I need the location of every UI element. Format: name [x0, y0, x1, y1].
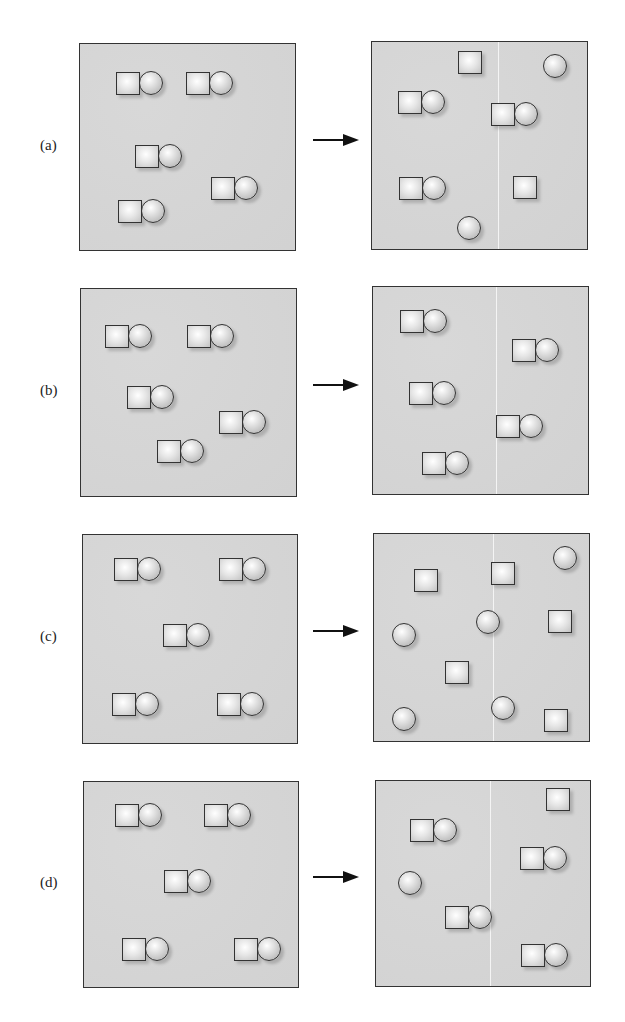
- square-molecule-icon: [445, 906, 469, 929]
- row-label: (b): [40, 382, 58, 399]
- square-molecule-icon: [410, 819, 434, 842]
- circle-molecule-icon: [186, 623, 210, 647]
- circle-molecule-icon: [128, 324, 152, 348]
- circle-molecule-icon: [422, 176, 446, 200]
- square-molecule-icon: [118, 200, 142, 223]
- circle-molecule-icon: [257, 937, 281, 961]
- square-molecule-icon: [163, 624, 187, 647]
- arrow-shaft: [313, 384, 347, 386]
- square-molecule-icon: [414, 569, 438, 592]
- arrow-shaft: [313, 139, 347, 141]
- right-arrow-icon: [313, 134, 359, 146]
- row-label: (c): [40, 628, 57, 645]
- circle-molecule-icon: [543, 54, 567, 78]
- square-molecule-icon: [544, 709, 568, 732]
- circle-molecule-icon: [139, 71, 163, 95]
- divider-line: [498, 42, 499, 249]
- square-molecule-icon: [164, 870, 188, 893]
- square-molecule-icon: [186, 72, 210, 95]
- square-molecule-icon: [422, 452, 446, 475]
- square-molecule-icon: [234, 938, 258, 961]
- circle-molecule-icon: [468, 905, 492, 929]
- circle-molecule-icon: [234, 176, 258, 200]
- circle-molecule-icon: [209, 71, 233, 95]
- square-molecule-icon: [491, 562, 515, 585]
- arrow-head: [343, 134, 359, 146]
- circle-molecule-icon: [421, 90, 445, 114]
- square-molecule-icon: [548, 610, 572, 633]
- arrow-head: [343, 625, 359, 637]
- circle-molecule-icon: [135, 692, 159, 716]
- circle-molecule-icon: [227, 803, 251, 827]
- square-molecule-icon: [187, 325, 211, 348]
- circle-molecule-icon: [398, 871, 422, 895]
- circle-molecule-icon: [141, 199, 165, 223]
- square-molecule-icon: [112, 693, 136, 716]
- circle-molecule-icon: [457, 216, 481, 240]
- arrow-shaft: [313, 630, 347, 632]
- circle-molecule-icon: [242, 410, 266, 434]
- circle-molecule-icon: [158, 144, 182, 168]
- row-label: (a): [40, 137, 57, 154]
- circle-molecule-icon: [210, 324, 234, 348]
- circle-molecule-icon: [433, 818, 457, 842]
- right-arrow-icon: [313, 625, 359, 637]
- square-molecule-icon: [217, 693, 241, 716]
- arrow-shaft: [313, 876, 347, 878]
- square-molecule-icon: [157, 440, 181, 463]
- circle-molecule-icon: [150, 385, 174, 409]
- square-molecule-icon: [400, 310, 424, 333]
- row-label: (d): [40, 874, 58, 891]
- square-molecule-icon: [135, 145, 159, 168]
- square-molecule-icon: [513, 176, 537, 199]
- before-panel: [80, 288, 297, 497]
- circle-molecule-icon: [514, 102, 538, 126]
- square-molecule-icon: [115, 804, 139, 827]
- circle-molecule-icon: [138, 803, 162, 827]
- circle-molecule-icon: [145, 937, 169, 961]
- square-molecule-icon: [398, 91, 422, 114]
- circle-molecule-icon: [242, 557, 266, 581]
- circle-molecule-icon: [476, 610, 500, 634]
- circle-molecule-icon: [491, 696, 515, 720]
- square-molecule-icon: [458, 51, 482, 74]
- circle-molecule-icon: [543, 846, 567, 870]
- square-molecule-icon: [520, 847, 544, 870]
- divider-line: [496, 287, 497, 494]
- circle-molecule-icon: [180, 439, 204, 463]
- circle-molecule-icon: [392, 623, 416, 647]
- square-molecule-icon: [219, 558, 243, 581]
- square-molecule-icon: [114, 558, 138, 581]
- circle-molecule-icon: [544, 943, 568, 967]
- square-molecule-icon: [105, 325, 129, 348]
- square-molecule-icon: [122, 938, 146, 961]
- square-molecule-icon: [399, 177, 423, 200]
- circle-molecule-icon: [240, 692, 264, 716]
- square-molecule-icon: [219, 411, 243, 434]
- circle-molecule-icon: [553, 546, 577, 570]
- right-arrow-icon: [313, 871, 359, 883]
- square-molecule-icon: [512, 339, 536, 362]
- arrow-head: [343, 871, 359, 883]
- circle-molecule-icon: [187, 869, 211, 893]
- circle-molecule-icon: [432, 381, 456, 405]
- square-molecule-icon: [127, 386, 151, 409]
- square-molecule-icon: [204, 804, 228, 827]
- square-molecule-icon: [496, 415, 520, 438]
- square-molecule-icon: [445, 661, 469, 684]
- circle-molecule-icon: [445, 451, 469, 475]
- right-arrow-icon: [313, 379, 359, 391]
- square-molecule-icon: [409, 382, 433, 405]
- square-molecule-icon: [491, 103, 515, 126]
- arrow-head: [343, 379, 359, 391]
- square-molecule-icon: [521, 944, 545, 967]
- circle-molecule-icon: [535, 338, 559, 362]
- square-molecule-icon: [546, 788, 570, 811]
- square-molecule-icon: [116, 72, 140, 95]
- circle-molecule-icon: [519, 414, 543, 438]
- circle-molecule-icon: [423, 309, 447, 333]
- square-molecule-icon: [211, 177, 235, 200]
- circle-molecule-icon: [392, 707, 416, 731]
- circle-molecule-icon: [137, 557, 161, 581]
- divider-line: [490, 781, 491, 986]
